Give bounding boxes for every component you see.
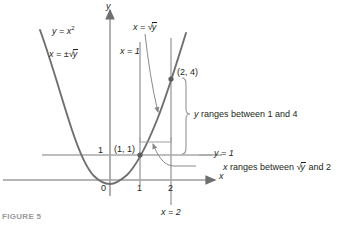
annotation-x-range-prefix: ranges between xyxy=(228,162,297,172)
label-line-x-equals-1: x = 1 xyxy=(120,47,140,56)
y-tick-label-1: 1 xyxy=(98,146,103,155)
annotation-x-range-suffix: and 2 xyxy=(306,162,331,172)
label-point-2-4: (2, 4) xyxy=(177,68,198,77)
label-line-x-equals-2: x = 2 xyxy=(161,208,181,217)
radical-group-boundary: √y xyxy=(148,22,157,32)
x-tick-label-1: 1 xyxy=(137,184,142,193)
figure-container: y x 0 1 2 1 y = x2 x = ±√y x = √y x = 1 … xyxy=(0,0,337,225)
label-parabola-equation-text: y = x xyxy=(52,26,71,36)
figure-caption-fragment: FIGURE 5 xyxy=(2,212,41,222)
point-marker-1-1 xyxy=(137,152,142,157)
origin-tick-label: 0 xyxy=(101,184,106,193)
label-boundary-sqrt-radicand: y xyxy=(152,22,158,32)
leader-line-sqrt-label xyxy=(145,34,158,112)
annotation-x-range: x ranges between √y and 2 xyxy=(223,162,331,172)
radical-group-x-range: √y xyxy=(297,162,306,172)
x-extent-bracket xyxy=(140,137,171,142)
y-axis-label: y xyxy=(106,2,111,11)
label-parabola-exponent: 2 xyxy=(71,25,74,31)
label-parabola-inverse-prefix: x = ± xyxy=(49,49,69,59)
y-range-brace xyxy=(182,78,190,154)
label-point-1-1: (1, 1) xyxy=(114,145,135,154)
annotation-y-range-text: ranges between 1 and 4 xyxy=(199,109,298,119)
radical-group-inverse: √y xyxy=(69,49,78,59)
x-axis-label: x xyxy=(219,172,224,181)
x-tick-label-2: 2 xyxy=(168,184,173,193)
annotation-y-range: y ranges between 1 and 4 xyxy=(194,110,298,119)
label-boundary-sqrt: x = √y xyxy=(133,22,157,32)
point-marker-2-4 xyxy=(168,76,173,81)
label-line-y-equals-1: y = 1 xyxy=(214,149,234,158)
label-boundary-sqrt-prefix: x = xyxy=(133,22,148,32)
label-parabola-inverse-radicand: y xyxy=(73,49,79,59)
label-parabola-equation: y = x2 xyxy=(52,27,75,36)
label-parabola-inverse: x = ±√y xyxy=(49,49,78,59)
